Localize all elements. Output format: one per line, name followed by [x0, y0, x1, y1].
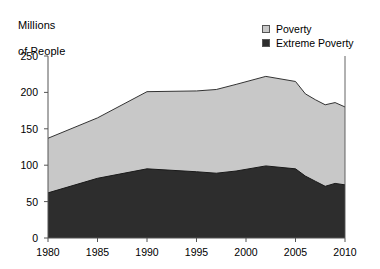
y-tick-label: 50 [8, 197, 38, 208]
plot-area [0, 0, 380, 269]
y-tick-label: 200 [8, 87, 38, 98]
x-tick-label: 2005 [276, 247, 316, 258]
y-tick-label: 0 [8, 233, 38, 244]
x-tick-label: 2000 [226, 247, 266, 258]
y-tick-label: 150 [8, 124, 38, 135]
x-tick-label: 2010 [325, 247, 365, 258]
x-tick-label: 1980 [28, 247, 68, 258]
x-tick-label: 1995 [177, 247, 217, 258]
y-tick-label: 250 [8, 51, 38, 62]
x-tick-label: 1990 [127, 247, 167, 258]
x-tick-label: 1985 [78, 247, 118, 258]
poverty-area-chart: Millions of People Poverty Extreme Pover… [0, 0, 380, 269]
y-tick-label: 100 [8, 160, 38, 171]
